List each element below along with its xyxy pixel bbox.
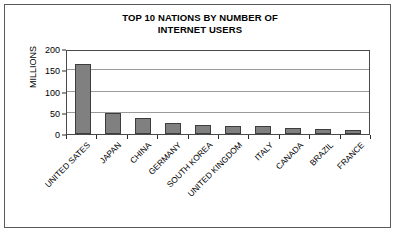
bar-japan bbox=[105, 113, 121, 134]
x-axis-label: UNITED SATES bbox=[43, 140, 92, 189]
x-axis-label: CANADA bbox=[273, 140, 305, 172]
x-axis-label: FRANCE bbox=[335, 140, 366, 171]
x-axis-label: JAPAN bbox=[97, 140, 122, 165]
x-axis-label: BRAZIL bbox=[308, 140, 336, 168]
bar-france bbox=[345, 130, 361, 134]
bar-germany bbox=[165, 123, 181, 134]
bar-slot bbox=[248, 51, 278, 134]
bar-slot bbox=[128, 51, 158, 134]
chart-title: TOP 10 NATIONS BY NUMBER OF INTERNET USE… bbox=[40, 12, 360, 36]
chart-figure: TOP 10 NATIONS BY NUMBER OF INTERNET USE… bbox=[0, 0, 395, 232]
bar-brazil bbox=[315, 129, 331, 134]
bar-china bbox=[135, 118, 151, 134]
y-axis-tick-label: 50 bbox=[50, 109, 60, 119]
chart-title-line-1: TOP 10 NATIONS BY NUMBER OF bbox=[40, 12, 360, 24]
chart-title-line-2: INTERNET USERS bbox=[40, 24, 360, 36]
plot-area bbox=[66, 50, 370, 135]
bar-south-korea bbox=[195, 125, 211, 134]
y-axis-tick-label: 150 bbox=[45, 66, 60, 76]
bar-canada bbox=[285, 128, 301, 134]
bar-slot bbox=[68, 51, 98, 134]
bar-slot bbox=[278, 51, 308, 134]
bar-slot bbox=[158, 51, 188, 134]
bar-united-sates bbox=[75, 64, 91, 134]
y-axis-tick-label: 100 bbox=[45, 88, 60, 98]
bar-slot bbox=[98, 51, 128, 134]
bar-slot bbox=[218, 51, 248, 134]
x-axis-label: UNITED KINGDOM bbox=[186, 140, 245, 199]
bar-slot bbox=[308, 51, 338, 134]
y-axis-ticks: 050100150200 bbox=[0, 44, 66, 144]
bar-italy bbox=[255, 126, 271, 134]
bar-series bbox=[67, 51, 369, 134]
bar-united-kingdom bbox=[225, 126, 241, 134]
y-axis-tick-label: 200 bbox=[45, 45, 60, 55]
bar-slot bbox=[188, 51, 218, 134]
bar-slot bbox=[338, 51, 368, 134]
x-axis-label: CHINA bbox=[128, 140, 153, 165]
x-axis-labels: UNITED SATESJAPANCHINAGERMANYSOUTH KOREA… bbox=[0, 138, 395, 208]
x-axis-label: ITALY bbox=[252, 140, 275, 163]
